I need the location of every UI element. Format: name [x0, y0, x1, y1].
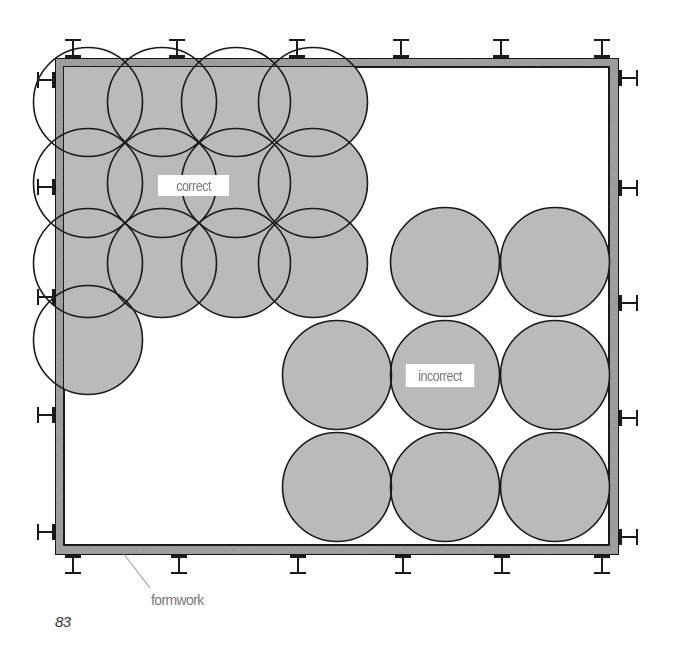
brace-icon	[619, 295, 637, 311]
incorrect-label: incorrect	[406, 364, 474, 387]
figure-number: 83	[55, 614, 71, 629]
brace-icon	[594, 555, 610, 573]
formwork-leader-line	[123, 553, 150, 588]
brace-icon	[619, 529, 637, 545]
compaction-diagram	[0, 0, 673, 656]
brace-icon	[619, 410, 637, 426]
brace-icon	[38, 179, 55, 195]
brace-icon	[38, 407, 55, 423]
correct-label: correct	[158, 175, 229, 196]
brace-icon	[393, 40, 409, 58]
brace-icon	[619, 70, 637, 86]
brace-icon	[619, 180, 637, 196]
brace-icon	[290, 555, 306, 573]
formwork-label: formwork	[151, 593, 204, 607]
brace-icon	[395, 555, 411, 573]
brace-icon	[494, 555, 510, 573]
brace-icon	[594, 40, 610, 58]
brace-icon	[38, 524, 55, 540]
brace-icon	[171, 555, 187, 573]
brace-icon	[65, 555, 81, 573]
brace-icon	[493, 40, 509, 58]
